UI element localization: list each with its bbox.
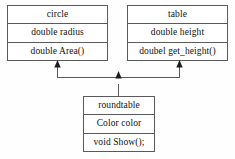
class-box-circle[interactable]: circle double radius double Area()	[7, 5, 108, 61]
class-name-circle: circle	[8, 6, 107, 23]
class-operation-table: doubel get_height()	[128, 42, 227, 60]
class-operation-roundtable: void Show();	[84, 133, 154, 151]
class-box-table[interactable]: table double height doubel get_height()	[127, 5, 228, 61]
class-attribute-circle: double radius	[8, 23, 107, 41]
arrowhead-to-bus	[115, 71, 121, 79]
class-box-roundtable[interactable]: roundtable Color color void Show();	[83, 96, 155, 152]
class-operation-circle: double Area()	[8, 42, 107, 60]
class-attribute-table: double height	[128, 23, 227, 41]
class-attribute-roundtable: Color color	[84, 114, 154, 132]
class-name-roundtable: roundtable	[84, 97, 154, 114]
arrowhead-to-circle	[54, 60, 60, 68]
arrowhead-to-table	[176, 60, 182, 68]
class-name-table: table	[128, 6, 227, 23]
uml-diagram-canvas: circle double radius double Area() table…	[0, 0, 235, 159]
